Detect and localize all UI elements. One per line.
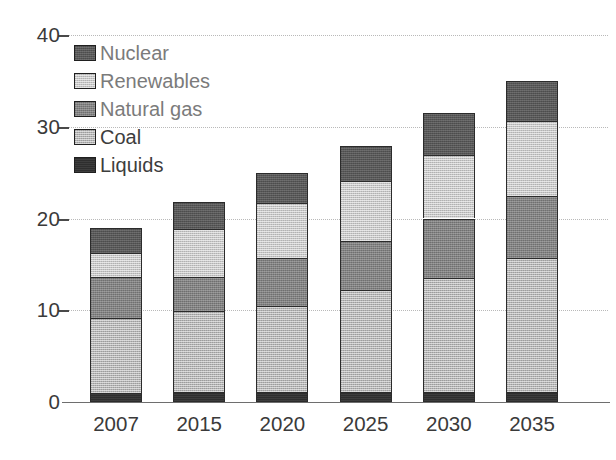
bar-segment-2025-liquids[interactable] (340, 392, 392, 402)
nuclear-swatch-icon (74, 45, 96, 61)
bar-segment-2030-natural-gas[interactable] (423, 219, 475, 279)
stacked-bar-chart: 010203040 200720152020202520302035 Nucle… (0, 0, 616, 460)
x-tick-label-2025: 2025 (321, 414, 411, 435)
y-tick-label-0: 0 (48, 392, 60, 413)
renewables-swatch-icon (74, 73, 96, 89)
bar-segment-2025-coal[interactable] (340, 290, 392, 392)
y-tick-label-40: 40 (37, 25, 60, 46)
bar-segment-2025-nuclear[interactable] (340, 146, 392, 181)
bar-segment-2007-renewables[interactable] (90, 253, 142, 277)
bar-segment-2020-nuclear[interactable] (256, 173, 308, 203)
legend-item-renewables[interactable]: Renewables (74, 70, 210, 92)
bar-segment-2020-liquids[interactable] (256, 392, 308, 402)
bar-2025[interactable] (340, 0, 392, 402)
bar-segment-2015-liquids[interactable] (173, 392, 225, 402)
x-tick-label-2007: 2007 (71, 414, 161, 435)
liquids-swatch-icon (74, 157, 96, 173)
bar-segment-2035-coal[interactable] (506, 258, 558, 392)
legend-label-renewables: Renewables (100, 71, 210, 91)
bar-segment-2035-natural-gas[interactable] (506, 196, 558, 258)
y-tick-label-10: 10 (37, 300, 60, 321)
bar-segment-2015-natural-gas[interactable] (173, 277, 225, 311)
bar-2035[interactable] (506, 0, 558, 402)
bar-2020[interactable] (256, 0, 308, 402)
y-tick-label-20: 20 (37, 209, 60, 230)
bar-segment-2035-liquids[interactable] (506, 392, 558, 402)
bar-segment-2020-coal[interactable] (256, 306, 308, 392)
bar-segment-2007-liquids[interactable] (90, 393, 142, 402)
bar-segment-2007-coal[interactable] (90, 318, 142, 393)
bar-2030[interactable] (423, 0, 475, 402)
x-tick-label-2035: 2035 (487, 414, 577, 435)
bar-segment-2030-coal[interactable] (423, 278, 475, 392)
x-tick-label-2015: 2015 (154, 414, 244, 435)
chart-legend: NuclearRenewablesNatural gasCoalLiquids (74, 42, 210, 176)
coal-swatch-icon (74, 129, 96, 145)
x-tick-label-2020: 2020 (237, 414, 327, 435)
legend-item-coal[interactable]: Coal (74, 126, 210, 148)
legend-item-nuclear[interactable]: Nuclear (74, 42, 210, 64)
legend-label-nuclear: Nuclear (100, 43, 169, 63)
natural-gas-swatch-icon (74, 101, 96, 117)
bar-segment-2007-natural-gas[interactable] (90, 277, 142, 317)
bar-segment-2020-renewables[interactable] (256, 203, 308, 258)
bar-segment-2035-renewables[interactable] (506, 121, 558, 195)
legend-item-natural-gas[interactable]: Natural gas (74, 98, 210, 120)
x-tick-label-2030: 2030 (404, 414, 494, 435)
legend-item-liquids[interactable]: Liquids (74, 154, 210, 176)
y-tick-label-30: 30 (37, 117, 60, 138)
bar-segment-2015-coal[interactable] (173, 311, 225, 392)
bar-segment-2015-renewables[interactable] (173, 229, 225, 278)
bar-segment-2030-nuclear[interactable] (423, 113, 475, 155)
bar-segment-2030-liquids[interactable] (423, 392, 475, 402)
bar-segment-2025-renewables[interactable] (340, 181, 392, 241)
legend-label-liquids: Liquids (100, 155, 163, 175)
bar-segment-2025-natural-gas[interactable] (340, 241, 392, 291)
bar-segment-2007-nuclear[interactable] (90, 228, 142, 254)
legend-label-natural-gas: Natural gas (100, 99, 202, 119)
bar-segment-2030-renewables[interactable] (423, 155, 475, 218)
legend-label-coal: Coal (100, 127, 141, 147)
axis-line-zero (62, 402, 610, 403)
bar-segment-2015-nuclear[interactable] (173, 202, 225, 229)
bar-segment-2020-natural-gas[interactable] (256, 258, 308, 306)
bar-segment-2035-nuclear[interactable] (506, 81, 558, 121)
